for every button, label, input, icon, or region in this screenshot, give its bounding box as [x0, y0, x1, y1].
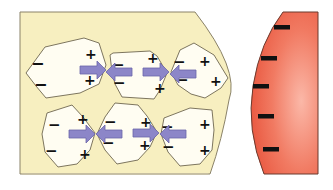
- plus-charge-icon: +: [199, 53, 211, 69]
- plus-charge-icon: +: [77, 111, 89, 127]
- minus-charge-icon: −: [45, 142, 58, 160]
- minus-charge-icon: [261, 56, 277, 61]
- plus-charge-icon: +: [210, 73, 222, 89]
- charged-body: [251, 12, 318, 174]
- minus-charge-icon: −: [31, 54, 44, 73]
- plus-charge-icon: +: [139, 137, 151, 153]
- plus-charge-icon: +: [84, 72, 96, 88]
- plus-charge-icon: +: [147, 50, 159, 66]
- plus-charge-icon: +: [85, 46, 97, 62]
- minus-charge-icon: [258, 114, 274, 119]
- minus-charge-icon: −: [104, 113, 117, 131]
- plus-charge-icon: +: [79, 146, 91, 162]
- minus-charge-icon: [253, 84, 269, 89]
- minus-charge-icon: −: [48, 116, 61, 134]
- minus-charge-icon: [274, 25, 290, 30]
- plus-charge-icon: +: [199, 116, 211, 132]
- plus-charge-icon: +: [199, 142, 211, 158]
- minus-charge-icon: −: [34, 75, 47, 94]
- diagram-canvas: − − + + − − + + − − + + − − + + − − + + …: [0, 0, 333, 190]
- minus-charge-icon: [263, 147, 279, 152]
- plus-charge-icon: +: [154, 80, 166, 96]
